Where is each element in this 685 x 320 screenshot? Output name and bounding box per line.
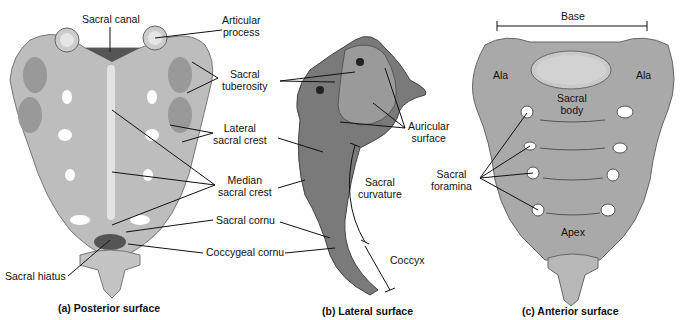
caption-posterior-surface: (a) Posterior surface bbox=[58, 302, 160, 314]
label-coccyx: Coccyx bbox=[390, 254, 424, 266]
caption-lateral-surface: (b) Lateral surface bbox=[322, 305, 413, 317]
sacrum-illustration bbox=[0, 0, 685, 320]
label-sacral-tuberosity: Sacral tuberosity bbox=[222, 68, 268, 92]
label-sacral-cornu: Sacral cornu bbox=[216, 214, 275, 226]
label-median-sacral-crest: Median sacral crest bbox=[218, 174, 272, 198]
label-articular-process: Articular process bbox=[222, 14, 261, 38]
label-sacral-hiatus: Sacral hiatus bbox=[5, 270, 66, 282]
label-apex: Apex bbox=[561, 226, 585, 238]
posterior-sacrum-drawing bbox=[10, 26, 213, 298]
label-sacral-canal: Sacral canal bbox=[82, 13, 140, 25]
label-sacral-foramina: Sacral foramina bbox=[431, 168, 472, 192]
label-ala-left: Ala bbox=[493, 69, 508, 81]
label-lateral-sacral-crest: Lateral sacral crest bbox=[213, 122, 267, 146]
label-ala-right: Ala bbox=[636, 69, 651, 81]
label-auricular-surface: Auricular surface bbox=[408, 120, 449, 144]
caption-anterior-surface: (c) Anterior surface bbox=[522, 305, 618, 317]
label-base: Base bbox=[561, 10, 585, 22]
label-coccygeal-cornu: Coccygeal cornu bbox=[206, 246, 284, 258]
label-sacral-body: Sacral body bbox=[557, 92, 587, 116]
label-sacral-curvature: Sacral curvature bbox=[358, 176, 402, 200]
